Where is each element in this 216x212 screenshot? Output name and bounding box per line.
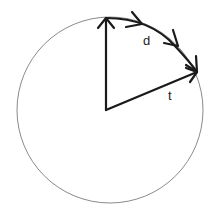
- vertical-radius-arrow: [98, 18, 114, 110]
- label-d: d: [143, 33, 150, 48]
- circle-diagram: d t: [0, 0, 216, 212]
- label-t: t: [168, 88, 172, 103]
- t-radius-arrow: [106, 68, 197, 110]
- arc-d-arrows: [106, 12, 197, 72]
